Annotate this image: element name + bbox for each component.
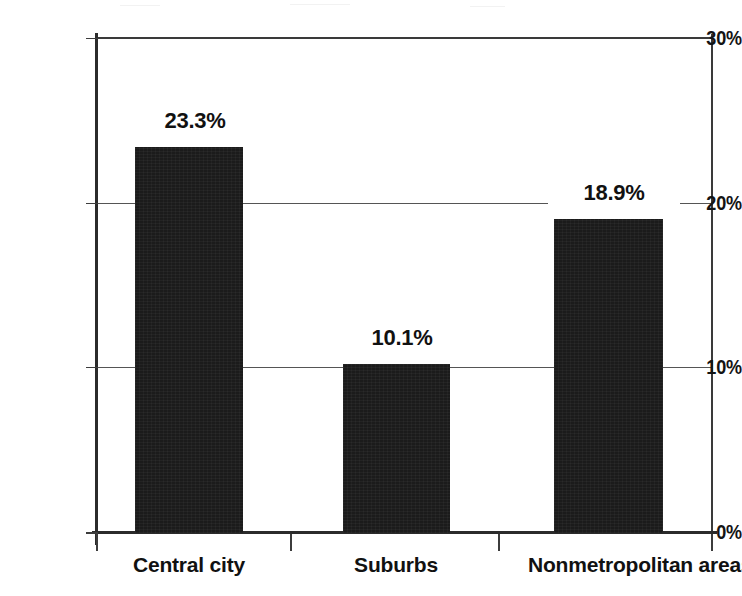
scan-artifact: [120, 5, 160, 6]
scan-artifact: [470, 6, 505, 7]
y-axis-label-10: 10%: [670, 355, 742, 379]
x-tick-1: [290, 534, 292, 551]
x-axis-label-suburbs: Suburbs: [336, 553, 456, 577]
y-axis-label-0: 0%: [670, 520, 742, 544]
x-axis-label-nonmetropolitan-areas: Nonmetropolitan areas: [528, 553, 688, 577]
y-tick-30: [86, 38, 98, 39]
bar-value-label-suburbs: 10.1%: [336, 325, 468, 351]
y-axis-label-30: 30%: [670, 26, 742, 50]
bar-central-city[interactable]: [135, 147, 243, 533]
y-axis-line: [95, 33, 98, 545]
bar-value-label-central-city: 23.3%: [129, 108, 261, 134]
scan-artifact: [290, 4, 350, 5]
x-tick-start: [96, 534, 98, 551]
bar-nonmetropolitan-areas[interactable]: [554, 219, 663, 533]
plot-top-border: [97, 37, 713, 39]
bar-chart: 30% 20% 10% 0% 23.3% Central city 10.1% …: [0, 0, 742, 596]
bar-value-label-nonmetropolitan-areas: 18.9%: [548, 180, 680, 206]
x-tick-2: [498, 534, 500, 551]
bar-suburbs[interactable]: [343, 364, 450, 533]
y-axis-label-20: 20%: [670, 191, 742, 215]
y-tick-20: [86, 203, 98, 204]
x-axis-label-central-city: Central city: [129, 553, 249, 577]
y-tick-10: [86, 367, 98, 368]
plot-right-border: [711, 34, 713, 546]
